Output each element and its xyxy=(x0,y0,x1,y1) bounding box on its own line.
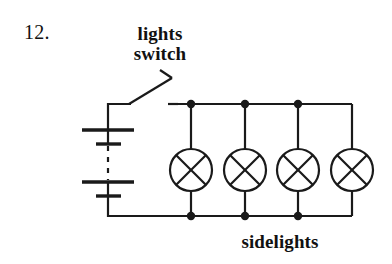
switch-label: lightsswitch xyxy=(108,24,212,64)
lamp-icon-2[interactable] xyxy=(224,104,266,216)
junction-dot-bottom-3 xyxy=(294,212,302,220)
lamp-icon-3[interactable] xyxy=(277,104,319,216)
junction-dot-top-3 xyxy=(294,100,302,108)
open-switch-icon[interactable] xyxy=(129,78,172,104)
switch-label-leader-line xyxy=(160,70,172,78)
junction-dot-top-2 xyxy=(241,100,249,108)
battery-icon xyxy=(82,115,134,196)
junction-dot-bottom-2 xyxy=(241,212,249,220)
junction-dot-bottom-1 xyxy=(187,212,195,220)
lamp-icon-4[interactable] xyxy=(331,149,373,191)
question-number: 12. xyxy=(24,22,50,43)
wire-switch-left-lead xyxy=(108,104,131,115)
switch-label-line-2: switch xyxy=(108,44,212,64)
wire-bottom-rail xyxy=(108,196,352,216)
junction-dot-top-1 xyxy=(187,100,195,108)
lamp-icon-1[interactable] xyxy=(170,104,212,216)
lamps-label: sidelights xyxy=(180,232,380,252)
circuit-diagram-page: 12. lightsswitch sidelights xyxy=(0,0,392,264)
switch-label-line-1: lights xyxy=(138,23,183,44)
